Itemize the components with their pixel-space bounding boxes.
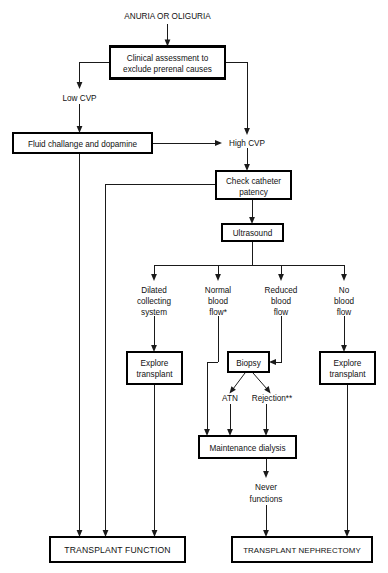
explore-transplant-right-box[interactable] — [320, 352, 375, 384]
explore-left-line-2: transplant — [137, 370, 174, 379]
node-ultrasound[interactable]: Ultrasound — [222, 224, 283, 241]
arrowhead-clinical-highcvp — [244, 128, 250, 135]
edge-biopsy-rejection — [253, 373, 267, 389]
node-explore-transplant-left[interactable]: Explore transplant — [127, 352, 182, 384]
connector-layer — [77, 24, 350, 537]
node-fluid-challenge-dopamine[interactable]: Fluid challange and dopamine — [13, 133, 152, 153]
arrowhead-clinical-lowcvp — [77, 82, 83, 89]
noflow-line-1: No — [339, 286, 350, 295]
edge-clinical-lowcvp — [80, 63, 111, 84]
edge-clinical-highcvp — [225, 63, 247, 130]
edge-reducedflow-biopsy — [275, 316, 281, 362]
noflow-line-3: flow — [337, 308, 352, 317]
maintenance-dialysis-label: Maintenance dialysis — [209, 444, 285, 453]
node-high-cvp: High CVP — [229, 139, 265, 148]
normalflow-line-3: flow* — [209, 308, 228, 317]
clinical-assessment-box[interactable] — [110, 47, 225, 79]
transplant-nephrectomy-label: TRANSPLANT NEPHRECTOMY — [243, 546, 361, 555]
arrowhead-bus-normalflow — [215, 274, 221, 281]
node-maintenance-dialysis[interactable]: Maintenance dialysis — [199, 436, 296, 458]
arrowhead-biopsy-atn — [230, 386, 236, 393]
arrowhead-catheter-ultrasound — [249, 217, 255, 224]
explore-transplant-left-box[interactable] — [127, 352, 182, 384]
clinical-assessment-line-1: Clinical assessment to — [127, 54, 209, 63]
node-no-blood-flow: No blood flow — [334, 286, 354, 317]
flowchart-svg: ANURIA OR OLIGURIA Low CVP High CVP Dila… — [0, 0, 388, 573]
reducedflow-line-3: flow — [274, 308, 289, 317]
node-low-cvp: Low CVP — [62, 94, 97, 103]
dilated-line-2: collecting — [137, 297, 172, 306]
edge-normalflow-dialysis — [207, 362, 218, 430]
reducedflow-line-2: blood — [271, 297, 291, 306]
node-biopsy[interactable]: Biopsy — [228, 352, 269, 372]
arrowhead-bus-dilated — [151, 274, 157, 281]
arrowhead-dialysis-never — [263, 471, 269, 478]
node-anuria-or-oliguria: ANURIA OR OLIGURIA — [124, 12, 211, 21]
arrowhead-fluid-highcvp — [215, 140, 222, 146]
node-clinical-assessment[interactable]: Clinical assessment to exclude prerenal … — [110, 47, 225, 79]
normalflow-line-1: Normal — [205, 286, 232, 295]
node-atn: ATN — [222, 394, 238, 403]
arrowhead-highcvp-catheter — [244, 164, 250, 171]
node-transplant-function[interactable]: TRANSPLANT FUNCTION — [50, 537, 185, 562]
dilated-line-1: Dilated — [141, 286, 167, 295]
dilated-line-3: system — [141, 308, 167, 317]
node-rejection: Rejection** — [252, 394, 293, 403]
node-dilated-collecting-system: Dilated collecting system — [137, 286, 172, 317]
explore-right-line-2: transplant — [330, 370, 367, 379]
check-catheter-line-2: patency — [239, 188, 269, 197]
node-reduced-blood-flow: Reduced blood flow — [265, 286, 298, 317]
biopsy-label: Biopsy — [236, 359, 261, 368]
node-check-catheter-patency[interactable]: Check catheter patency — [216, 171, 291, 199]
node-transplant-nephrectomy[interactable]: TRANSPLANT NEPHRECTOMY — [232, 537, 372, 562]
fluid-challenge-label: Fluid challange and dopamine — [28, 140, 138, 149]
normalflow-line-2: blood — [208, 297, 228, 306]
edge-biopsy-atn — [233, 373, 245, 389]
node-never-functions: Never functions — [250, 483, 283, 504]
arrowhead-bus-noflow — [341, 274, 347, 281]
noflow-line-2: blood — [334, 297, 354, 306]
transplant-function-label: TRANSPLANT FUNCTION — [64, 545, 170, 555]
never-line-2: functions — [250, 495, 283, 504]
reducedflow-line-1: Reduced — [265, 286, 298, 295]
arrowhead-lowcvp-fluid — [77, 126, 83, 133]
clinical-assessment-line-2: exclude prerenal causes — [123, 65, 212, 74]
arrowhead-bus-reducedflow — [278, 274, 284, 281]
check-catheter-line-1: Check catheter — [226, 177, 281, 186]
node-explore-transplant-right[interactable]: Explore transplant — [320, 352, 375, 384]
ultrasound-label: Ultrasound — [233, 229, 273, 238]
never-line-1: Never — [255, 483, 277, 492]
box-node-layer: Clinical assessment to exclude prerenal … — [13, 47, 375, 563]
explore-right-line-1: Explore — [334, 359, 362, 368]
flowchart-canvas: ANURIA OR OLIGURIA Low CVP High CVP Dila… — [0, 0, 388, 573]
node-normal-blood-flow: Normal blood flow* — [205, 286, 232, 317]
explore-left-line-1: Explore — [141, 359, 169, 368]
